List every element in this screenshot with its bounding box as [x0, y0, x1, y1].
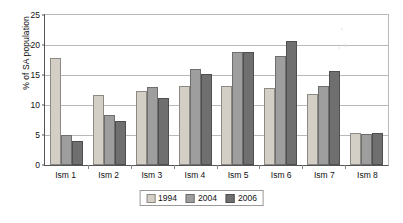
y-tick-label: 0	[35, 160, 40, 170]
y-tick-label: 5	[35, 130, 40, 140]
bars	[88, 15, 131, 165]
bar	[50, 58, 61, 165]
bar	[221, 86, 232, 165]
legend-item: 2004	[186, 193, 217, 203]
x-tick-mark	[174, 165, 175, 169]
y-tick-label: 25	[31, 10, 40, 20]
legend-swatch	[186, 194, 195, 203]
bar-group	[174, 15, 217, 165]
x-axis-label: Ism 8	[346, 170, 389, 180]
legend-item: 2006	[226, 193, 257, 203]
y-tick-label: 10	[31, 100, 40, 110]
bar	[329, 71, 340, 165]
y-axis-title: % of SA population	[21, 0, 31, 123]
bar	[286, 41, 297, 165]
bar	[179, 86, 190, 165]
x-axis-label: Ism 7	[303, 170, 346, 180]
bar	[350, 133, 361, 165]
legend-swatch	[146, 194, 155, 203]
x-axis-label: Ism 5	[217, 170, 260, 180]
bar	[264, 88, 275, 165]
y-tick-label: 20	[31, 40, 40, 50]
bar-group	[259, 15, 302, 165]
bar	[136, 91, 147, 165]
bar	[147, 87, 158, 165]
legend: 199420042006	[139, 190, 264, 206]
x-tick-mark	[302, 165, 303, 169]
bar-group	[217, 15, 260, 165]
bar	[232, 52, 243, 165]
legend-label: 2006	[238, 193, 257, 203]
bar	[275, 56, 286, 165]
bar	[190, 69, 201, 165]
bar	[93, 95, 104, 165]
legend-label: 2004	[198, 193, 217, 203]
bar-chart: % of SA population 0510152025 Ism 1Ism 2…	[0, 0, 403, 223]
x-axis-label: Ism 4	[173, 170, 216, 180]
y-tick-label: 15	[31, 70, 40, 80]
x-axis-labels: Ism 1Ism 2Ism 3Ism 4Ism 5Ism 6Ism 7Ism 8	[44, 170, 389, 180]
bar	[158, 98, 169, 165]
bars	[174, 15, 217, 165]
bars	[302, 15, 345, 165]
bar	[372, 133, 383, 165]
legend-item: 1994	[146, 193, 177, 203]
x-tick-mark	[131, 165, 132, 169]
x-axis-label: Ism 6	[260, 170, 303, 180]
scan-speckle	[341, 28, 343, 30]
bars	[217, 15, 260, 165]
bar	[61, 135, 72, 165]
bars	[345, 15, 388, 165]
bar-group	[88, 15, 131, 165]
bar-group	[345, 15, 388, 165]
scan-speckle	[344, 44, 347, 47]
bar-group	[302, 15, 345, 165]
bar	[72, 141, 83, 165]
x-axis-label: Ism 1	[44, 170, 87, 180]
bar-group	[131, 15, 174, 165]
x-tick-mark	[88, 165, 89, 169]
bar	[361, 134, 372, 165]
legend-swatch	[226, 194, 235, 203]
legend-label: 1994	[158, 193, 177, 203]
bars	[259, 15, 302, 165]
x-tick-mark	[259, 165, 260, 169]
bars	[45, 15, 88, 165]
x-axis-label: Ism 3	[130, 170, 173, 180]
bar	[201, 74, 212, 165]
x-axis-label: Ism 2	[87, 170, 130, 180]
bar	[307, 94, 318, 165]
scan-speckle	[338, 47, 340, 49]
x-tick-mark	[217, 165, 218, 169]
x-tick-mark	[345, 165, 346, 169]
bar	[318, 86, 329, 165]
plot-area: 0510152025	[44, 14, 389, 166]
bar-group	[45, 15, 88, 165]
bar-groups	[45, 15, 388, 165]
bar	[243, 52, 254, 165]
bar	[104, 115, 115, 165]
bar	[115, 121, 126, 165]
bars	[131, 15, 174, 165]
